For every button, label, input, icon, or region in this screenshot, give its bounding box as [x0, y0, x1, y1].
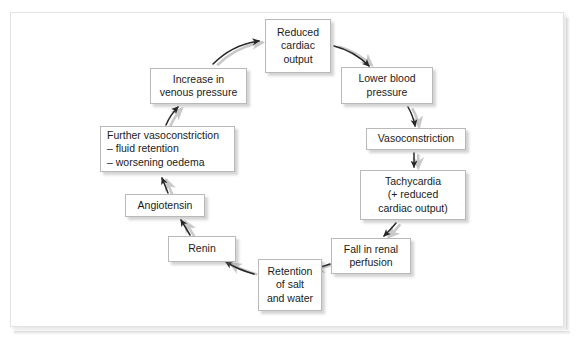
node-label: Tachycardia (+ reduced cardiac output) — [367, 175, 459, 215]
arrow-tachycardia-to-renal — [384, 223, 396, 236]
node-increase-in-venous-pressure: Increase in venous pressure — [150, 68, 247, 104]
node-label: Fall in renal perfusion — [338, 243, 404, 269]
arrow-lower-to-vasoconstriction — [408, 107, 415, 126]
arrow-further-to-venous — [166, 107, 178, 125]
node-retention-of-salt-and-water: Retention of salt and water — [258, 259, 322, 311]
arrow-venous-to-reduced — [213, 41, 259, 64]
node-label: Increase in venous pressure — [157, 73, 240, 99]
node-label: Vasoconstriction — [373, 132, 459, 145]
node-angiotensin: Angiotensin — [125, 194, 205, 217]
node-renin: Renin — [168, 236, 236, 262]
node-label: Renin — [175, 242, 229, 255]
node-label: Reduced cardiac output — [272, 26, 324, 66]
arrow-renin-to-angiotensin — [181, 220, 190, 235]
arrow-reduced-to-lower — [334, 46, 369, 66]
node-lower-blood-pressure: Lower blood pressure — [341, 67, 433, 104]
node-vasoconstriction: Vasoconstriction — [366, 128, 466, 150]
arrow-retention-to-renin — [226, 262, 254, 274]
arrow-angiotensin-to-further — [162, 178, 168, 193]
node-label: Further vasoconstriction – fluid retenti… — [107, 129, 228, 169]
cycle-diagram: Reduced cardiac output Lower blood press… — [0, 0, 587, 347]
node-tachycardia: Tachycardia (+ reduced cardiac output) — [360, 170, 466, 220]
node-reduced-cardiac-output: Reduced cardiac output — [265, 19, 331, 73]
node-label: Lower blood pressure — [348, 72, 426, 98]
node-label: Angiotensin — [132, 199, 198, 212]
node-fall-in-renal-perfusion: Fall in renal perfusion — [331, 238, 411, 274]
node-label: Retention of salt and water — [265, 265, 315, 305]
node-further-vasoconstriction: Further vasoconstriction – fluid retenti… — [100, 126, 235, 172]
